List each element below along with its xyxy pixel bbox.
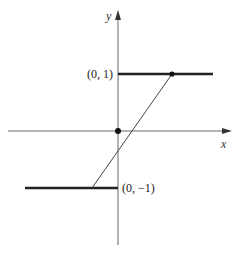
upper-dot (169, 71, 174, 76)
upper-point-label: (0, 1) (87, 67, 113, 81)
origin-dot (115, 128, 121, 134)
lower-point-label: (0, −1) (122, 181, 155, 195)
x-axis-label: x (220, 137, 227, 151)
y-axis-label: y (105, 9, 112, 23)
y-axis-arrow-icon (115, 10, 121, 20)
function-graph: y x (0, 1) (0, −1) (0, 0, 237, 254)
x-axis-arrow-icon (222, 128, 232, 134)
